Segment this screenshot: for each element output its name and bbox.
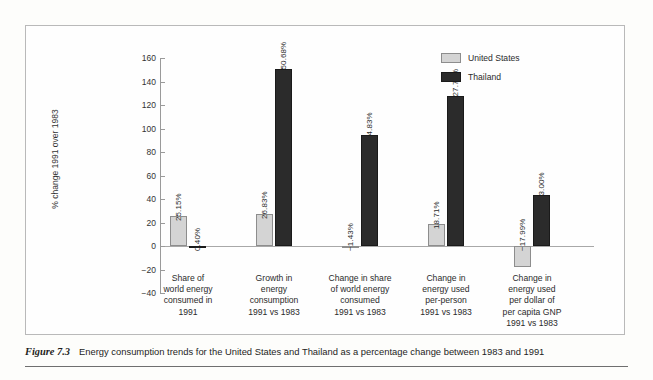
- bar-value-label: 26.83%: [260, 192, 269, 220]
- y-axis-tick: [160, 129, 165, 130]
- y-axis-tick-label: 160: [130, 53, 156, 63]
- y-axis-tick-label: 140: [130, 77, 156, 87]
- category-label: Share of world energy consumed in 1991: [145, 273, 231, 318]
- y-axis-tick: [160, 105, 165, 106]
- bar-chart-plot: % change 1991 over 1983 −40−200204060801…: [26, 26, 626, 336]
- y-axis-tick-label: 80: [130, 147, 156, 157]
- y-axis-tick: [160, 152, 165, 153]
- bar-value-label: 150.68%: [279, 42, 288, 74]
- bar-value-label: −17.99%: [518, 218, 527, 251]
- y-axis-tick: [160, 82, 165, 83]
- bar-thailand[interactable]: [447, 96, 464, 246]
- y-axis-tick-label: 100: [130, 124, 156, 134]
- bar-united-states[interactable]: [256, 214, 273, 246]
- legend-item-thailand[interactable]: Thailand: [441, 72, 520, 82]
- figure-caption-label: Figure 7.3: [25, 346, 70, 357]
- category-label: Change in energy used per-person 1991 vs…: [403, 273, 489, 318]
- bar-value-label: −1.43%: [346, 223, 355, 251]
- legend-swatch-thailand: [441, 72, 461, 82]
- chart-legend: United States Thailand: [441, 53, 520, 91]
- y-axis-tick-label: 20: [130, 218, 156, 228]
- y-axis-title: % change 1991 over 1983: [50, 89, 60, 229]
- caption-bottom-rule: [25, 366, 628, 367]
- y-axis-tick-label: 60: [130, 171, 156, 181]
- bar-value-label: 18.71%: [432, 201, 441, 229]
- y-axis-tick: [160, 223, 165, 224]
- bar-value-label: 0.40%: [193, 227, 202, 250]
- bar-value-label: 94.83%: [365, 112, 374, 140]
- figure-frame: % change 1991 over 1983 −40−200204060801…: [25, 25, 625, 335]
- legend-item-united-states[interactable]: United States: [441, 53, 520, 63]
- y-axis-tick: [160, 58, 165, 59]
- y-axis-tick: [160, 270, 165, 271]
- bar-thailand[interactable]: [533, 195, 550, 246]
- bar-thailand[interactable]: [361, 135, 378, 246]
- y-axis-tick-label: 120: [130, 100, 156, 110]
- bar-value-label: 43.00%: [537, 173, 546, 201]
- figure-caption: Figure 7.3Energy consumption trends for …: [25, 346, 628, 357]
- legend-swatch-united-states: [441, 53, 461, 63]
- y-axis-tick-label: 0: [130, 241, 156, 251]
- y-axis-tick: [160, 246, 165, 247]
- y-axis-tick: [160, 176, 165, 177]
- legend-label-united-states: United States: [468, 53, 520, 63]
- category-label: Change in share of world energy consumed…: [317, 273, 403, 318]
- category-label: Growth in energy consumption 1991 vs 198…: [231, 273, 317, 318]
- legend-label-thailand: Thailand: [468, 72, 501, 82]
- y-axis-tick-label: 40: [130, 194, 156, 204]
- bar-thailand[interactable]: [275, 69, 292, 246]
- y-axis-tick: [160, 199, 165, 200]
- category-label: Change in energy used per dollar of per …: [489, 273, 575, 329]
- bar-value-label: 25.15%: [174, 194, 183, 222]
- figure-caption-text: Energy consumption trends for the United…: [79, 346, 544, 357]
